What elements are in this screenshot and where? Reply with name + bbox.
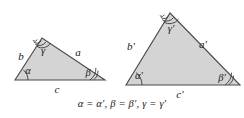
angle-label-alpha: α xyxy=(25,65,31,76)
side-label-b: b xyxy=(18,50,24,62)
triangle-left: b a c α β γ xyxy=(15,38,105,95)
figure-caption: α = α′, β = β′, γ = γ′ xyxy=(0,98,244,109)
angle-label-beta: β xyxy=(84,67,91,78)
side-label-b-prime: b′ xyxy=(127,40,136,52)
side-label-a: a xyxy=(75,46,81,58)
angle-label-beta-prime: β′ xyxy=(217,72,226,83)
side-label-a-prime: a′ xyxy=(199,38,208,50)
angle-label-alpha-prime: α′ xyxy=(135,70,144,81)
triangle-right: b′ a′ c′ α′ β′ γ′ xyxy=(126,13,240,100)
similar-triangles-figure: b a c α β γ xyxy=(0,0,244,118)
angle-label-gamma-prime: γ′ xyxy=(168,23,175,34)
side-label-c: c xyxy=(55,83,60,95)
